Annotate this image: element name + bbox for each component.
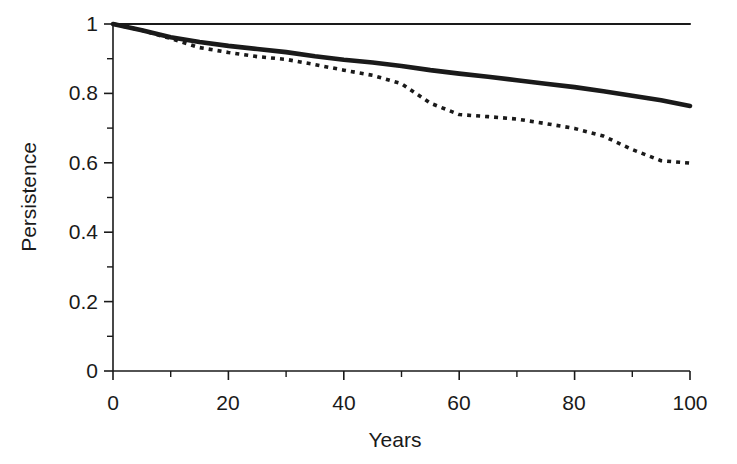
x-tick-label-100: 100: [672, 391, 707, 414]
x-tick-label-40: 40: [332, 391, 355, 414]
y-tick-label-0: 0: [86, 359, 98, 382]
chart-figure: 1 0.8 0.6 0.4 0.2 0 0 20 40 60 80 100 Ye…: [0, 0, 737, 464]
x-tick-label-80: 80: [562, 391, 585, 414]
y-tick-label-0p8: 0.8: [69, 81, 98, 104]
y-tick-label-0p4: 0.4: [69, 220, 99, 243]
x-axis-tick-labels: 0 20 40 60 80 100: [107, 391, 707, 414]
y-tick-label-1: 1: [86, 12, 98, 35]
x-tick-label-20: 20: [216, 391, 239, 414]
y-axis-ticks: [104, 24, 113, 371]
persistence-line-chart: 1 0.8 0.6 0.4 0.2 0 0 20 40 60 80 100 Ye…: [0, 0, 737, 464]
y-axis-title: Persistence: [17, 142, 40, 252]
series-upper-curve: [113, 24, 690, 106]
y-tick-label-0p2: 0.2: [69, 290, 98, 313]
y-tick-label-0p6: 0.6: [69, 151, 98, 174]
x-tick-label-0: 0: [107, 391, 119, 414]
x-axis-title: Years: [369, 428, 422, 451]
x-tick-label-60: 60: [447, 391, 470, 414]
x-axis-ticks: [113, 371, 690, 380]
y-axis-tick-labels: 1 0.8 0.6 0.4 0.2 0: [69, 12, 99, 382]
